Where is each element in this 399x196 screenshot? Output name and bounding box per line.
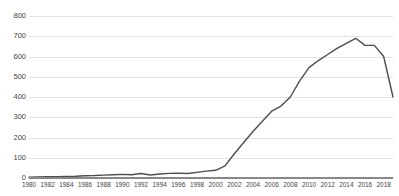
- x-tick-label: 2016: [358, 182, 372, 188]
- y-axis-tick-labels: 8007006005004003002001000: [0, 0, 26, 196]
- x-tick-label: 1998: [190, 182, 204, 188]
- y-tick-label: 800: [13, 12, 26, 20]
- x-tick-label: 2010: [302, 182, 316, 188]
- x-tick-label: 2018: [377, 182, 391, 188]
- x-tick-label: 1990: [115, 182, 129, 188]
- x-axis-tick-labels: 1980198219841986198819901992199419961998…: [0, 182, 399, 196]
- x-tick-label: 1988: [97, 182, 111, 188]
- y-tick-label: 200: [13, 134, 26, 142]
- x-tick-label: 2004: [246, 182, 260, 188]
- x-tick-label: 1994: [153, 182, 167, 188]
- x-axis-line: [29, 177, 393, 178]
- x-tick-label: 2002: [227, 182, 241, 188]
- x-tick-label: 2006: [265, 182, 279, 188]
- x-tick-label: 1996: [171, 182, 185, 188]
- y-tick-label: 100: [13, 154, 26, 162]
- y-tick-label: 500: [13, 73, 26, 81]
- x-tick-label: 2008: [283, 182, 297, 188]
- x-tick-label: 2012: [321, 182, 335, 188]
- x-tick-label: 1992: [134, 182, 148, 188]
- plot-area: [29, 16, 393, 178]
- y-tick-label: 400: [13, 93, 26, 101]
- line-series: [29, 16, 393, 178]
- x-tick-label: 1986: [78, 182, 92, 188]
- chart-container: 8007006005004003002001000 19801982198419…: [0, 0, 399, 196]
- x-tick-label: 1982: [41, 182, 55, 188]
- x-tick-label: 2000: [209, 182, 223, 188]
- x-tick-label: 2014: [339, 182, 353, 188]
- gridline: [29, 178, 393, 179]
- series-polyline: [29, 38, 393, 177]
- y-tick-label: 300: [13, 113, 26, 121]
- x-tick-label: 1980: [22, 182, 36, 188]
- y-tick-label: 700: [13, 32, 26, 40]
- x-tick-label: 1984: [59, 182, 73, 188]
- y-tick-label: 600: [13, 53, 26, 61]
